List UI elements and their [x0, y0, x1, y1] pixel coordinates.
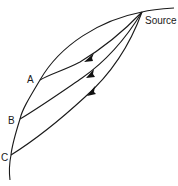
arrowhead-c — [87, 86, 96, 96]
ray-diagram: Source A B C — [0, 0, 178, 186]
path-source-to-b — [20, 12, 142, 119]
point-label-a: A — [27, 74, 34, 85]
source-label: Source — [145, 15, 177, 26]
point-label-c: C — [1, 152, 8, 163]
point-label-b: B — [8, 115, 15, 126]
